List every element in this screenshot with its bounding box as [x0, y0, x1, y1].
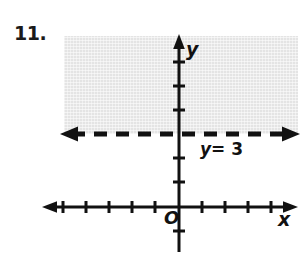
y-axis-label: y	[186, 40, 198, 59]
x-axis-label: x	[278, 210, 290, 229]
x-axis-arrowhead-left	[42, 201, 57, 213]
coordinate-axes-svg	[0, 0, 306, 255]
inequality-graph-figure: 11.	[0, 0, 306, 255]
y-axis-arrowhead	[173, 34, 185, 49]
boundary-line-arrowhead-left	[60, 127, 78, 142]
boundary-line-equation-label: y= 3	[200, 141, 243, 158]
boundary-line-arrowhead-right	[282, 127, 300, 142]
equation-variable: y	[200, 139, 211, 159]
equation-value: = 3	[211, 139, 243, 159]
origin-label: O	[164, 209, 179, 227]
